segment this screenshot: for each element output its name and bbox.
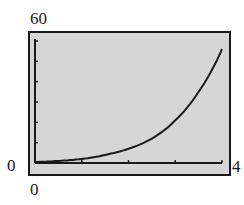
calculator-graph xyxy=(0,0,244,205)
screen-background xyxy=(29,32,230,175)
